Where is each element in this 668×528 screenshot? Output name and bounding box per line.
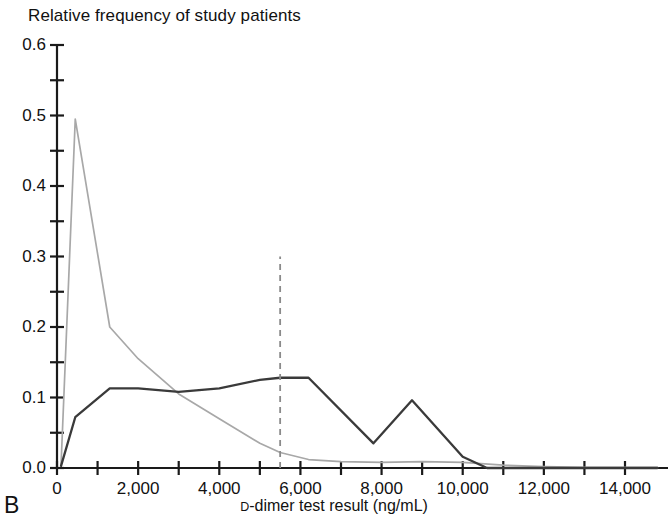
x-tick-label-6: 12,000 — [518, 480, 570, 497]
y-tick-label-2: 0.2 — [0, 318, 46, 335]
x-tick-label-7: 14,000 — [599, 480, 651, 497]
y-tick-label-0: 0.0 — [0, 459, 46, 476]
x-tick-label-3: 6,000 — [279, 480, 322, 497]
series-group — [61, 119, 657, 468]
figure-panel-b: Relative frequency of study patients B D… — [0, 0, 668, 528]
axis-group — [50, 45, 668, 475]
x-tick-label-4: 8,000 — [360, 480, 403, 497]
y-tick-label-6: 0.6 — [0, 36, 46, 53]
series-light-curve — [61, 119, 657, 467]
x-tick-label-0: 0 — [52, 480, 61, 497]
y-tick-label-5: 0.5 — [0, 107, 46, 124]
x-tick-label-1: 2,000 — [117, 480, 160, 497]
plot-area — [0, 0, 668, 528]
y-tick-label-1: 0.1 — [0, 389, 46, 406]
x-tick-label-2: 4,000 — [198, 480, 241, 497]
y-tick-label-3: 0.3 — [0, 248, 46, 265]
x-tick-label-5: 10,000 — [437, 480, 489, 497]
y-tick-label-4: 0.4 — [0, 177, 46, 194]
series-dark-curve — [61, 378, 657, 468]
